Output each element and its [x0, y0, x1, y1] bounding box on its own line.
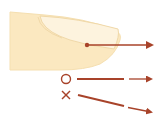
diagram-canvas	[0, 0, 166, 122]
correct-example	[62, 75, 152, 84]
swipe-gesture-diagram	[0, 0, 166, 122]
incorrect-mark-icon	[62, 91, 70, 99]
correct-mark-icon	[62, 75, 71, 84]
finger-icon	[10, 12, 120, 70]
incorrect-example	[62, 91, 151, 112]
